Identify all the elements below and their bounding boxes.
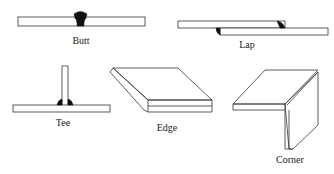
corner-label: Corner [276,154,304,165]
corner-joint: Corner [233,70,318,165]
lap-weld-left [216,28,220,35]
tee-base-plate [13,105,110,112]
butt-label: Butt [72,35,89,46]
edge-joint: Edge [110,68,212,133]
corner-top-edge [233,104,285,110]
edge-side [110,68,148,112]
corner-side-face [285,72,318,149]
lap-top-plate [178,21,285,28]
edge-label: Edge [157,122,178,133]
weld-joints-diagram: Butt Lap Tee Edge Corner [0,0,334,174]
tee-weld-left [57,99,62,105]
butt-joint: Butt [18,12,145,47]
tee-label: Tee [56,117,71,128]
lap-joint: Lap [178,21,328,50]
edge-top-face [113,68,212,100]
lap-label: Lap [239,39,255,50]
lap-bottom-plate [220,28,328,35]
tee-vertical-plate [62,66,68,106]
corner-top-face [233,70,318,104]
tee-joint: Tee [13,66,110,128]
tee-weld-right [68,99,73,105]
